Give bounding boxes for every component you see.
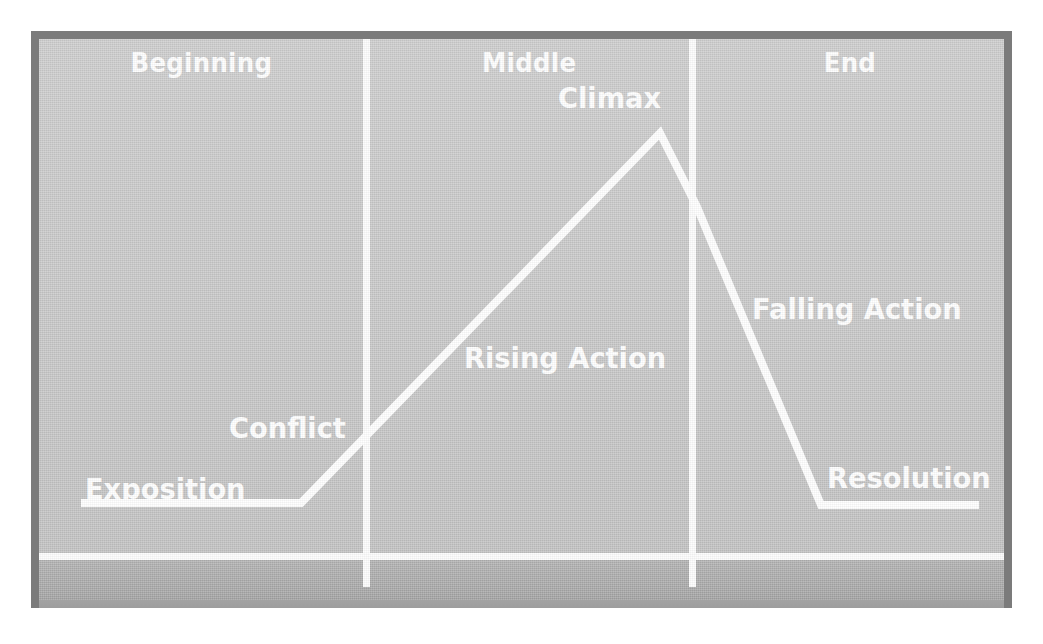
plot-label-resolution: Resolution: [827, 464, 991, 493]
diagram-inner: Beginning Middle End Exposition Conflict…: [39, 39, 1004, 600]
plot-label-conflict: Conflict: [229, 414, 346, 443]
plot-diagram: Beginning Middle End Exposition Conflict…: [31, 31, 1012, 608]
plot-label-climax: Climax: [558, 84, 661, 113]
plot-label-rising-action: Rising Action: [464, 344, 666, 373]
plot-label-falling-action: Falling Action: [752, 295, 962, 324]
plot-label-exposition: Exposition: [85, 475, 246, 504]
stage-bar: [39, 560, 1004, 608]
